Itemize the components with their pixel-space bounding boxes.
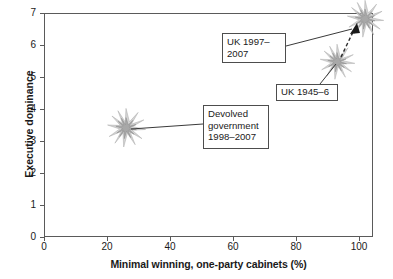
y-tick-mark	[40, 205, 44, 206]
x-tick-label-40: 40	[158, 242, 182, 252]
y-tick-mark	[40, 173, 44, 174]
x-tick-label-0: 0	[32, 242, 56, 252]
x-tick-label-20: 20	[95, 242, 119, 252]
x-tick-label-80: 80	[284, 242, 308, 252]
y-axis-title: Executive dominance	[23, 34, 35, 214]
y-tick-mark	[40, 109, 44, 110]
y-tick-mark	[40, 77, 44, 78]
chart-figure: 7 6 5 4 3 2 1 0 0 20 40 60 80 100 Minima…	[0, 0, 393, 279]
x-axis-title: Minimal winning, one-party cabinets (%)	[44, 258, 373, 270]
x-tick-label-60: 60	[221, 242, 245, 252]
y-tick-label-0: 0	[22, 232, 36, 242]
callout-uk-1945-6[interactable]: UK 1945–6	[276, 84, 338, 101]
y-tick-mark	[40, 13, 44, 14]
y-tick-mark	[40, 141, 44, 142]
x-tick-label-100: 100	[347, 242, 371, 252]
y-tick-label-7: 7	[22, 8, 36, 18]
y-tick-mark	[40, 45, 44, 46]
callout-uk-1997-2007[interactable]: UK 1997– 2007	[222, 33, 286, 63]
callout-devolved-government[interactable]: Devolved government 1998–2007	[203, 105, 269, 149]
